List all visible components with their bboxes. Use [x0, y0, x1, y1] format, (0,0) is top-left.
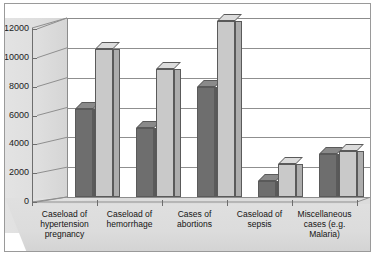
bar: [278, 157, 303, 197]
bar-side: [296, 164, 303, 197]
bar-face: [156, 69, 174, 197]
bar-face: [278, 164, 296, 197]
y-axis-tick-label-text: 8000: [9, 82, 29, 91]
y-axis-tick-label-text: 4000: [9, 139, 29, 148]
plot-left-border: [67, 18, 68, 198]
bar-top: [95, 42, 120, 49]
y-axis-tick: [32, 58, 37, 59]
y-axis-tick-label: 6000: [5, 111, 29, 121]
bar: [217, 14, 242, 197]
y-axis-tick-label: 10000: [5, 53, 29, 63]
y-axis-tick-label-text: 10000: [4, 53, 29, 62]
y-axis-tick: [32, 29, 37, 30]
y-axis-tick-label-text: 2000: [9, 168, 29, 177]
bar-side: [113, 49, 120, 197]
bar-face: [339, 151, 357, 197]
bar-side: [174, 69, 181, 197]
x-axis-tick: [357, 200, 358, 206]
y-axis-tick-label: 8000: [5, 82, 29, 92]
plot-bottom-border: [67, 197, 371, 198]
chart-figure: 020004000600080001000012000 Caseload of …: [0, 0, 376, 256]
y-axis-tick: [32, 116, 37, 117]
bar: [95, 42, 120, 197]
x-axis-tick: [292, 200, 293, 206]
bar-face: [319, 154, 337, 197]
bar-face: [136, 128, 154, 197]
x-axis-category-label: Caseload of hemorrhage: [97, 209, 163, 229]
x-axis-tick: [32, 200, 33, 206]
y-axis-tick-label-text: 6000: [9, 111, 29, 120]
y-axis-tick-label-text: 0: [24, 197, 29, 206]
y-axis-tick-label: 2000: [5, 168, 29, 178]
bar: [339, 144, 364, 197]
x-axis-category-label: Cases of abortions: [162, 209, 228, 229]
y-axis-tick-label: 4000: [5, 139, 29, 149]
bar-side: [235, 21, 242, 197]
y-axis-tick-label-text: 12000: [4, 24, 29, 33]
bar-top: [217, 14, 242, 21]
x-axis-category-label: Caseload of sepsis: [227, 209, 293, 229]
y-axis-tick: [32, 87, 37, 88]
y-axis-tick: [32, 144, 37, 145]
chart-frame: 020004000600080001000012000 Caseload of …: [4, 3, 371, 252]
bar-face: [217, 21, 235, 197]
y-axis-tick-label: 0: [5, 197, 29, 207]
bar-face: [197, 87, 215, 197]
bar-face: [95, 49, 113, 197]
bar-top: [339, 144, 364, 151]
x-axis-category-label: Miscellaneous cases (e.g. Malaria): [292, 209, 358, 239]
x-axis-tick: [162, 200, 163, 206]
y-axis-tick: [32, 173, 37, 174]
bar-top: [156, 62, 181, 69]
x-axis-tick: [97, 200, 98, 206]
bar-face: [258, 181, 276, 197]
bar-top: [278, 157, 303, 164]
bar-face: [75, 109, 93, 197]
bar-side: [357, 151, 364, 197]
bar: [156, 62, 181, 197]
y-axis-tick-label: 12000: [5, 24, 29, 34]
x-axis-tick: [227, 200, 228, 206]
x-axis-category-label: Caseload of hypertension pregnancy: [32, 209, 98, 239]
